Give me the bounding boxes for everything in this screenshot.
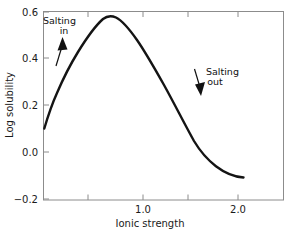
- salting-in-arrow-shaft: [56, 48, 62, 66]
- x-axis-ticks: [88, 12, 238, 201]
- x-tick-label-2.0: 2.0: [230, 204, 246, 215]
- y-tick-label--0.2: −0.2: [14, 194, 38, 205]
- y-tick-label-0.6: 0.6: [22, 7, 38, 18]
- solubility-chart-figure: 0.6 0.4 0.2 0.0 −0.2 1.0 2.0 Ionic stren…: [0, 0, 295, 237]
- x-tick-label-1.0: 1.0: [135, 204, 151, 215]
- y-tick-label-0.0: 0.0: [22, 147, 38, 158]
- solubility-curve: [44, 16, 243, 177]
- salting-out-label-line2: out: [207, 76, 223, 87]
- y-axis-title: Log solubility: [4, 72, 15, 138]
- annotation-salting-out: Salting out: [195, 66, 239, 96]
- salting-out-arrow-head-icon: [195, 82, 205, 96]
- salting-in-arrow-head-icon: [58, 37, 68, 51]
- x-tick-labels: 1.0 2.0: [135, 204, 246, 215]
- y-tick-label-0.2: 0.2: [22, 100, 38, 111]
- axes-frame: [44, 12, 284, 201]
- chart-canvas: 0.6 0.4 0.2 0.0 −0.2 1.0 2.0 Ionic stren…: [0, 0, 295, 237]
- x-axis-title: Ionic strength: [116, 218, 185, 229]
- y-tick-label-0.4: 0.4: [22, 53, 38, 64]
- salting-out-arrow-shaft: [195, 69, 200, 84]
- y-tick-labels: 0.6 0.4 0.2 0.0 −0.2: [14, 7, 38, 205]
- plot-border: [44, 12, 284, 201]
- salting-in-label-line2: in: [60, 25, 69, 36]
- y-axis-ticks: [44, 12, 50, 199]
